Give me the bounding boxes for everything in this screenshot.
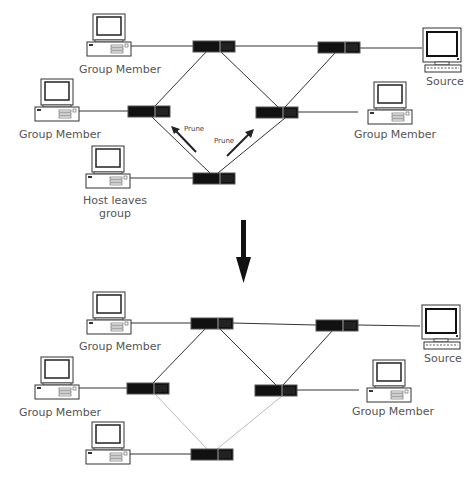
- group-member-pc-mid-left-after: [35, 357, 79, 399]
- label-group-member-top-left-after: Group Member: [70, 340, 170, 353]
- router-top-center: [193, 41, 235, 52]
- top-panel: [35, 14, 461, 188]
- source-computer-after: [422, 305, 460, 349]
- label-group-member-mid-left-after: Group Member: [10, 406, 110, 419]
- label-host-leaves-line2: group: [70, 207, 160, 220]
- group-member-pc-right: [368, 82, 412, 124]
- router-mid-right: [256, 107, 298, 118]
- router-top-right: [318, 42, 360, 53]
- router-mid-left-after: [127, 383, 169, 394]
- router-bottom-after: [191, 449, 233, 460]
- pruned-links: [155, 394, 282, 449]
- label-prune-right: Prune: [214, 137, 234, 145]
- router-mid-right-after: [255, 385, 297, 396]
- label-host-leaves-line1: Host leaves: [70, 194, 160, 207]
- group-member-pc-right-after: [367, 360, 411, 402]
- router-top-right-after: [316, 320, 358, 331]
- source-computer: [423, 28, 461, 72]
- label-prune-left: Prune: [184, 125, 204, 133]
- label-source-after: Source: [413, 352, 472, 365]
- group-member-pc-top-left: [87, 14, 131, 56]
- leaving-host-pc: [86, 146, 130, 188]
- label-source: Source: [415, 75, 472, 88]
- down-arrow-icon: [236, 220, 251, 283]
- router-top-center-after: [191, 318, 233, 329]
- former-member-pc: [86, 422, 130, 464]
- router-bottom: [193, 173, 235, 184]
- group-member-pc-top-left-after: [87, 292, 131, 334]
- label-group-member-top-left: Group Member: [70, 63, 170, 76]
- group-member-pc-mid-left: [35, 79, 79, 121]
- label-group-member-mid-left: Group Member: [10, 128, 110, 141]
- bottom-panel: [35, 292, 460, 464]
- label-group-member-right: Group Member: [340, 128, 450, 141]
- router-mid-left: [128, 106, 170, 117]
- label-group-member-right-after: Group Member: [338, 405, 448, 418]
